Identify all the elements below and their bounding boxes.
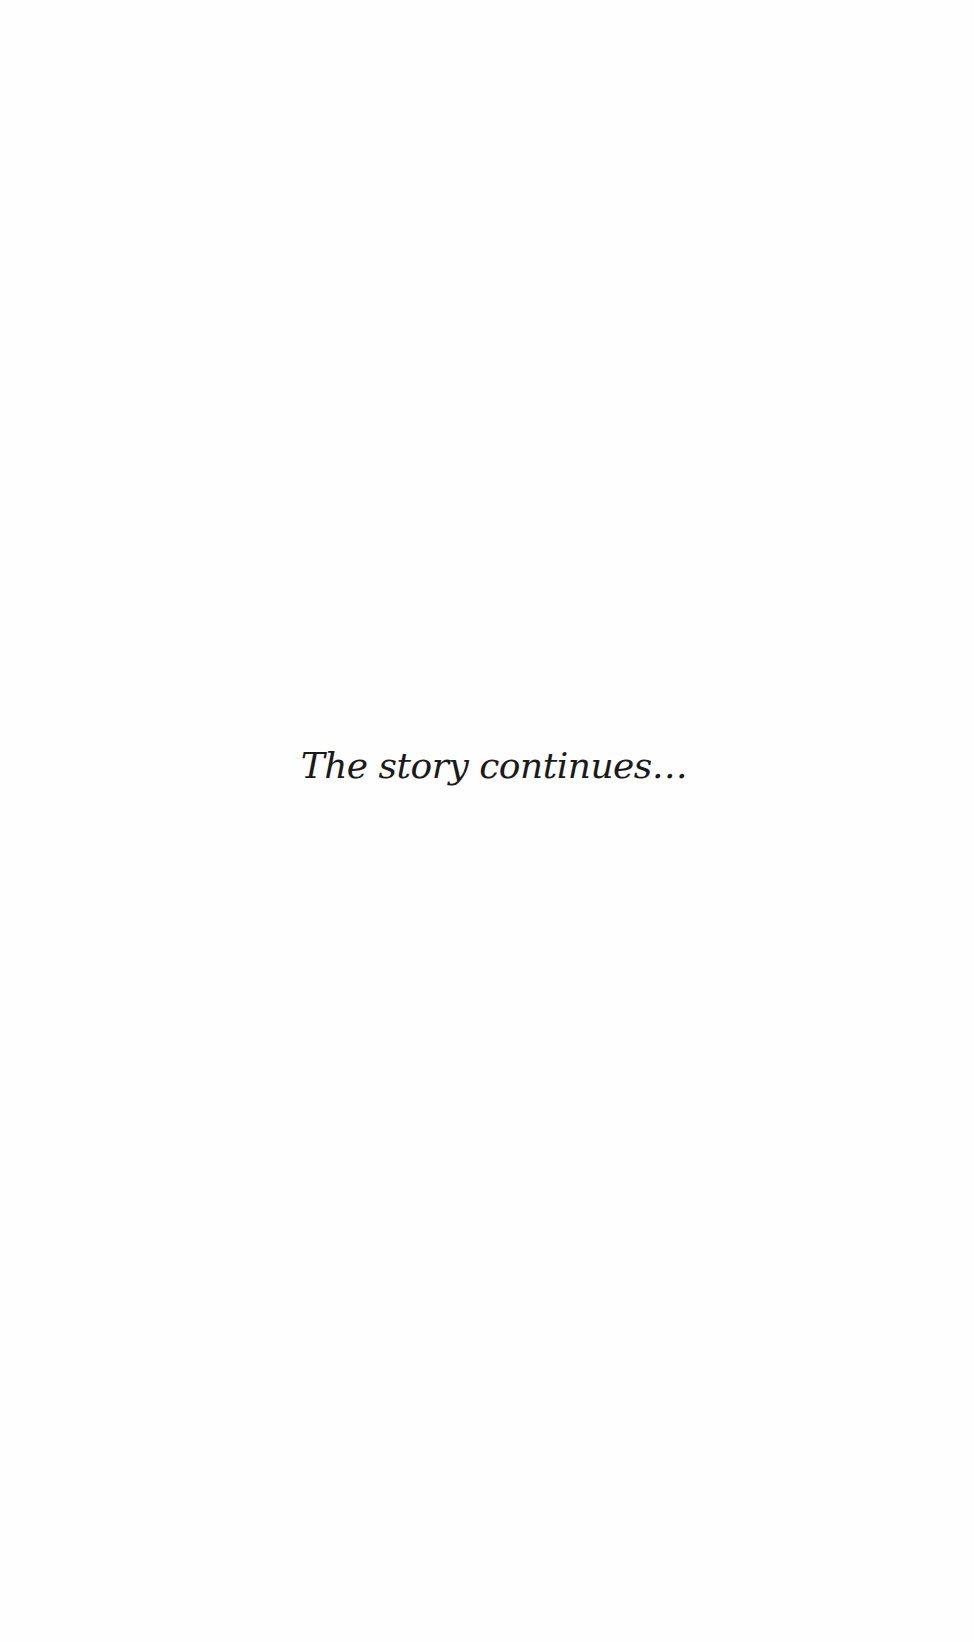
book-page: The story continues… (0, 0, 974, 1642)
closing-line-text: The story continues… (0, 748, 974, 784)
